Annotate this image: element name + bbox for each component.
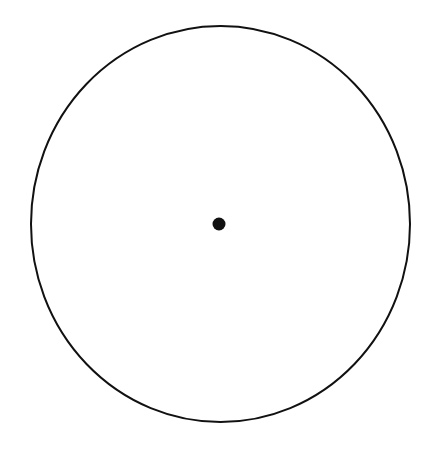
diagram-canvas [0, 0, 441, 454]
center-point [213, 218, 226, 231]
